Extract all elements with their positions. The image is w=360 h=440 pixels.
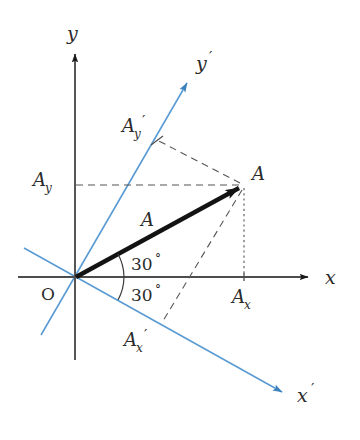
vector-magnitude-label: A — [139, 209, 154, 230]
y-prime-axis-prime-mark: ′ — [209, 48, 213, 66]
figure-container: y x y ′ x ′ O A A A y A x A y ′ A x ′ 30 — [0, 0, 360, 440]
ax-prime-label-main: A — [122, 329, 137, 350]
x-prime-axis-line — [24, 248, 282, 392]
y-prime-axis-line — [41, 83, 187, 335]
angle-upper-value: 30 — [131, 254, 153, 274]
ay-prime-label-main: A — [120, 115, 135, 136]
ay-prime-label-prime-mark: ′ — [142, 112, 146, 130]
vector-tip-label: A — [250, 163, 265, 184]
ay-prime-label-subscript: y — [133, 127, 141, 141]
angle-arc-upper — [118, 254, 124, 277]
x-axis-label: x — [325, 266, 336, 288]
origin-label: O — [41, 284, 55, 304]
x-prime-axis-label: x — [297, 384, 308, 406]
labels-group: y x y ′ x ′ O A A A y A x A y ′ A x ′ 30 — [31, 22, 336, 406]
principal-axes-group — [18, 54, 308, 360]
ay-label-main: A — [31, 169, 46, 190]
y-axis-label: y — [66, 22, 78, 44]
ax-label-main: A — [230, 286, 245, 307]
angle-lower-degree-symbol: ° — [155, 283, 161, 297]
angle-arc-lower — [118, 277, 124, 300]
x-prime-axis-prime-mark: ′ — [311, 380, 315, 398]
vector-diagram-svg: y x y ′ x ′ O A A A y A x A y ′ A x ′ 30 — [0, 0, 360, 440]
angle-lower-value: 30 — [131, 285, 153, 305]
angle-upper-degree-symbol: ° — [155, 252, 161, 266]
ax-prime-label-prime-mark: ′ — [144, 326, 148, 344]
ay-label-subscript: y — [44, 181, 52, 195]
y-prime-axis-label: y — [195, 52, 207, 74]
rotated-axes-group — [24, 83, 282, 392]
ay-prime-projection-dashed — [157, 140, 240, 183]
ax-label-subscript: x — [244, 298, 251, 312]
ax-prime-label-subscript: x — [136, 341, 143, 355]
